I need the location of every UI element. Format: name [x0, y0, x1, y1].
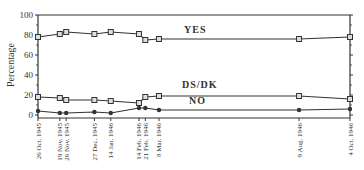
- square-marker-icon: [136, 101, 141, 106]
- series-label-dsdk: DS/DK: [182, 79, 218, 90]
- star-marker-icon: [143, 106, 147, 110]
- square-marker-icon: [36, 95, 41, 100]
- square-marker-icon: [156, 37, 161, 42]
- x-tick-label: 14 Jan. 1946: [107, 123, 115, 159]
- star-marker-icon: [348, 107, 352, 111]
- line-chart: 02040608010026 Oct. 194519 Nov. 194526 N…: [0, 0, 364, 170]
- square-marker-icon: [143, 95, 148, 100]
- star-marker-icon: [297, 108, 301, 112]
- square-marker-icon: [108, 30, 113, 35]
- square-marker-icon: [92, 98, 97, 103]
- square-marker-icon: [143, 38, 148, 43]
- square-marker-icon: [64, 98, 69, 103]
- star-marker-icon: [157, 108, 161, 112]
- series-label-yes: YES: [184, 24, 206, 35]
- y-tick-label: 100: [20, 10, 34, 20]
- square-marker-icon: [297, 94, 302, 99]
- star-marker-icon: [137, 106, 141, 110]
- square-marker-icon: [57, 96, 62, 101]
- y-axis-label: Percentage: [5, 43, 16, 87]
- star-marker-icon: [36, 109, 40, 113]
- square-marker-icon: [92, 32, 97, 37]
- square-marker-icon: [297, 37, 302, 42]
- series-line-no: [38, 108, 350, 113]
- x-tick-label: 26 Nov. 1945: [63, 123, 71, 161]
- square-marker-icon: [156, 94, 161, 99]
- x-tick-label: 21 Feb. 1946: [142, 123, 150, 160]
- y-tick-label: 80: [24, 30, 34, 40]
- x-tick-label: 26 Oct. 1945: [35, 123, 43, 160]
- x-tick-label: 4 Oct. 1946: [347, 123, 355, 156]
- star-marker-icon: [92, 110, 96, 114]
- y-tick-label: 40: [24, 70, 34, 80]
- square-marker-icon: [348, 35, 353, 40]
- square-marker-icon: [57, 32, 62, 37]
- y-tick-label: 60: [24, 50, 34, 60]
- star-marker-icon: [64, 111, 68, 115]
- square-marker-icon: [108, 99, 113, 104]
- star-marker-icon: [109, 111, 113, 115]
- y-tick-label: 20: [24, 90, 34, 100]
- square-marker-icon: [136, 32, 141, 37]
- x-tick-label: 8 Mar. 1946: [155, 123, 163, 158]
- x-tick-label: 27 Dec. 1945: [91, 123, 99, 161]
- square-marker-icon: [348, 97, 353, 102]
- y-tick-label: 0: [29, 110, 34, 120]
- star-marker-icon: [58, 111, 62, 115]
- series-label-no: NO: [189, 95, 206, 106]
- x-tick-label: 9 Aug. 1946: [296, 123, 304, 158]
- square-marker-icon: [64, 30, 69, 35]
- square-marker-icon: [36, 35, 41, 40]
